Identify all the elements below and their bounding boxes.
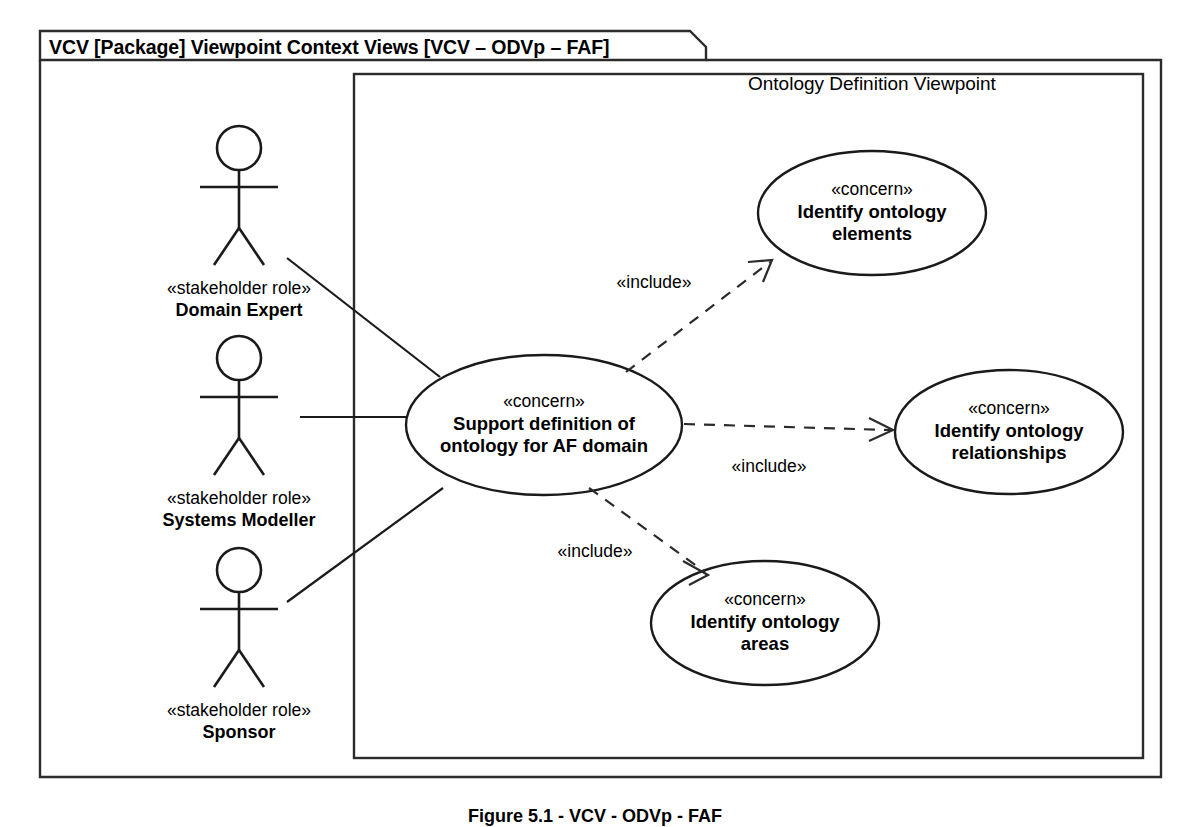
actor-domain-expert-label: «stakeholder role» Domain Expert [167, 278, 311, 321]
include-label-elements: «include» [617, 272, 692, 293]
package-frame-title: VCV [Package] Viewpoint Context Views [V… [49, 36, 609, 59]
system-boundary-title: Ontology Definition Viewpoint [748, 73, 996, 95]
use-case-support-definition-shape[interactable] [406, 355, 682, 495]
actor-sponsor-figure [200, 548, 278, 687]
use-case-identify-areas-shape[interactable] [651, 561, 879, 685]
actor-systems-modeller-label: «stakeholder role» Systems Modeller [162, 488, 315, 531]
include-label-relationships: «include» [732, 456, 807, 477]
include-label-areas: «include» [558, 541, 633, 562]
actor-systems-modeller-figure [200, 336, 278, 475]
actor-sponsor-label: «stakeholder role» Sponsor [167, 700, 311, 743]
actor-domain-expert-figure [200, 126, 278, 265]
actor-sponsor-stereotype: «stakeholder role» [167, 700, 311, 721]
include-arrow-relationships [684, 418, 893, 441]
actor-domain-expert-name: Domain Expert [167, 300, 311, 321]
actor-domain-expert-stereotype: «stakeholder role» [167, 278, 311, 299]
figure-caption: Figure 5.1 - VCV - ODVp - FAF [468, 806, 722, 827]
actor-systems-modeller-name: Systems Modeller [162, 510, 315, 531]
actor-systems-modeller-stereotype: «stakeholder role» [162, 488, 315, 509]
use-case-identify-elements-shape[interactable] [758, 151, 986, 275]
include-arrow-areas [589, 488, 708, 585]
actor-sponsor-name: Sponsor [167, 722, 311, 743]
use-case-identify-relationships-shape[interactable] [895, 370, 1123, 494]
